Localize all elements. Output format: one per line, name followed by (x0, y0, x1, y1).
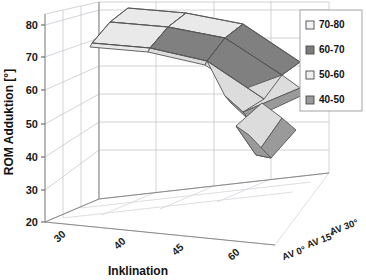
legend-swatch-icon (306, 96, 314, 104)
legend[interactable]: 70-80 60-70 50-60 40-50 (300, 10, 362, 111)
depth-axis-labels: AV 0° AV 15° AV 30° (281, 216, 360, 262)
value-tick-30: 30 (26, 184, 38, 196)
category-tick-40: 40 (111, 235, 128, 252)
legend-swatch-icon (306, 21, 314, 29)
value-tick-20: 20 (26, 216, 38, 228)
legend-item-50-60[interactable]: 50-60 (306, 69, 345, 80)
legend-label: 70-80 (319, 19, 345, 30)
value-tick-60: 60 (26, 84, 38, 96)
depth-tick-av30: AV 30° (328, 216, 360, 236)
value-axis-ticks (41, 25, 45, 222)
value-tick-50: 50 (26, 118, 38, 130)
depth-tick-av0: AV 0° (281, 243, 308, 262)
value-axis-title: ROM Adduktion [°] (2, 69, 16, 175)
left-wall (45, 2, 99, 222)
category-axis-title: Inklination (108, 264, 168, 278)
legend-item-40-50[interactable]: 40-50 (306, 94, 345, 105)
legend-swatch-icon (306, 46, 314, 54)
value-tick-80: 80 (26, 19, 38, 31)
category-tick-30: 30 (51, 228, 68, 245)
legend-label: 60-70 (319, 44, 345, 55)
legend-item-60-70[interactable]: 60-70 (306, 44, 345, 55)
legend-swatch-icon (306, 71, 314, 79)
value-tick-70: 70 (26, 51, 38, 63)
surface-chart-figure: 80 70 60 50 40 30 20 ROM Adduktion [°] (0, 0, 366, 280)
category-tick-60: 60 (225, 246, 242, 263)
category-tick-45: 45 (169, 241, 186, 258)
value-tick-40: 40 (26, 151, 38, 163)
legend-item-70-80[interactable]: 70-80 (306, 19, 345, 30)
value-axis-labels: 80 70 60 50 40 30 20 (26, 19, 38, 228)
legend-label: 40-50 (319, 94, 345, 105)
chart-canvas: 80 70 60 50 40 30 20 ROM Adduktion [°] (0, 0, 366, 280)
legend-label: 50-60 (319, 69, 345, 80)
